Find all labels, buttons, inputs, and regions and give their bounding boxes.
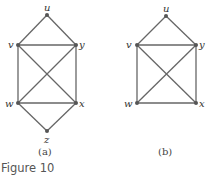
vertex-label-v: v	[126, 39, 132, 50]
vertex-v	[16, 43, 20, 47]
figure-10-diagram: u v y w x z (a) u v y w x (b)	[0, 0, 209, 177]
vertex-label-z: z	[43, 134, 50, 145]
vertex-w	[16, 101, 20, 105]
subfigure-label-a: (a)	[38, 146, 52, 157]
vertex-u	[45, 13, 49, 17]
vertex-label-w: w	[124, 98, 133, 109]
edge-w-z	[18, 103, 47, 131]
edge-u-y	[47, 15, 76, 45]
vertex-z	[45, 129, 49, 133]
vertex-label-x: x	[199, 98, 205, 109]
vertex-label-y: y	[198, 39, 205, 50]
vertex-w	[135, 101, 139, 105]
edge-u-y	[166, 16, 196, 45]
vertex-label-x: x	[79, 98, 85, 109]
vertex-y	[74, 43, 78, 47]
edge-u-v	[137, 16, 166, 45]
vertex-label-w: w	[5, 98, 14, 109]
vertex-x	[194, 101, 198, 105]
graph-a: u v y w x z (a)	[5, 2, 85, 157]
edge-u-v	[18, 15, 47, 45]
vertex-label-y: y	[78, 39, 85, 50]
vertex-u	[164, 14, 168, 18]
vertex-x	[74, 101, 78, 105]
vertex-v	[135, 43, 139, 47]
subfigure-label-b: (b)	[158, 146, 172, 157]
graph-b: u v y w x (b)	[124, 3, 205, 157]
vertex-y	[194, 43, 198, 47]
vertex-label-u: u	[44, 2, 50, 13]
figure-caption: Figure 10	[1, 161, 54, 175]
edge-x-z	[47, 103, 76, 131]
vertex-label-u: u	[163, 3, 169, 14]
vertex-label-v: v	[8, 39, 14, 50]
